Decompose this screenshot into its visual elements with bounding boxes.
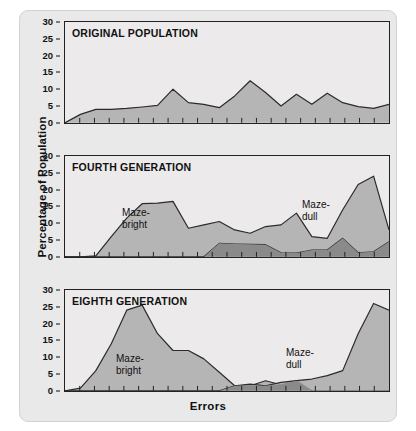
- series-original-population: [65, 81, 389, 123]
- plot-area-panel-1: ORIGINAL POPULATION: [64, 21, 390, 124]
- panel-fourth-generation: 30 25 20 15 10 5 0 FOURTH GENERATION Maz…: [20, 153, 398, 271]
- y-tick-20: 20: [20, 317, 60, 328]
- y-tick-10: 10: [20, 217, 60, 228]
- y-tick-25: 25: [20, 166, 60, 177]
- plot-area-panel-3: EIGHTH GENERATION Maze- bright Maze- dul…: [64, 289, 390, 392]
- y-axis-ticks-panel-2: 30 25 20 15 10 5 0: [20, 153, 60, 271]
- annotation-line-2: bright: [122, 219, 150, 231]
- y-tick-5: 5: [20, 368, 60, 379]
- annotation-maze-bright-panel-3: Maze- bright: [116, 353, 144, 376]
- annotation-line-2: bright: [116, 365, 144, 377]
- x-axis-tickmarks-panel-3: [80, 386, 375, 391]
- annotation-line-2: dull: [302, 211, 330, 223]
- annotation-line-1: Maze-: [286, 347, 314, 359]
- y-tick-10: 10: [20, 83, 60, 94]
- y-tick-25: 25: [20, 32, 60, 43]
- y-tick-10: 10: [20, 351, 60, 362]
- x-axis-tickmarks-panel-2: [80, 252, 375, 257]
- panel-original-population: 30 25 20 15 10 5 0 ORIGINAL POPULATION: [20, 19, 398, 137]
- y-tick-30: 30: [20, 150, 60, 161]
- panel-eighth-generation: 30 25 20 15 10 5 0 EIGHTH GENERATION Maz…: [20, 287, 398, 405]
- y-tick-15: 15: [20, 200, 60, 211]
- annotation-maze-bright-panel-2: Maze- bright: [122, 207, 150, 230]
- y-tick-30: 30: [20, 16, 60, 27]
- annotation-line-1: Maze-: [116, 353, 144, 365]
- annotation-maze-dull-panel-3: Maze- dull: [286, 347, 314, 370]
- y-tick-5: 5: [20, 100, 60, 111]
- y-axis-ticks-panel-1: 30 25 20 15 10 5 0: [20, 19, 60, 137]
- panel-title-1: ORIGINAL POPULATION: [72, 27, 198, 39]
- y-tick-0: 0: [20, 384, 60, 395]
- y-tick-30: 30: [20, 284, 60, 295]
- y-tick-0: 0: [20, 250, 60, 261]
- x-axis-tickmarks-panel-1: [80, 118, 375, 123]
- y-tick-15: 15: [20, 334, 60, 345]
- plot-area-panel-2: FOURTH GENERATION Maze- bright Maze- dul…: [64, 155, 390, 258]
- annotation-line-2: dull: [286, 359, 314, 371]
- annotation-line-1: Maze-: [122, 207, 150, 219]
- annotation-maze-dull-panel-2: Maze- dull: [302, 199, 330, 222]
- y-axis-ticks-panel-3: 30 25 20 15 10 5 0: [20, 287, 60, 405]
- y-tick-5: 5: [20, 234, 60, 245]
- annotation-line-1: Maze-: [302, 199, 330, 211]
- panel-title-2: FOURTH GENERATION: [72, 161, 191, 173]
- y-tick-20: 20: [20, 183, 60, 194]
- y-tick-25: 25: [20, 300, 60, 311]
- y-tick-20: 20: [20, 49, 60, 60]
- panel-title-3: EIGHTH GENERATION: [72, 295, 187, 307]
- y-tick-15: 15: [20, 66, 60, 77]
- x-axis-label: Errors: [20, 400, 396, 412]
- figure-container: Percentage of Population 30 25 20 15 10 …: [19, 10, 397, 422]
- y-tick-0: 0: [20, 116, 60, 127]
